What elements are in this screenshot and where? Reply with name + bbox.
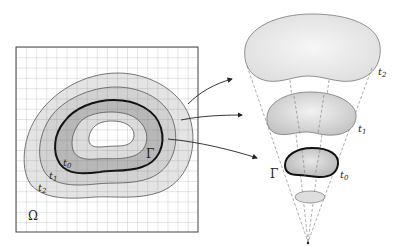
domain-label-omega: Ω	[28, 209, 38, 223]
front-label-gamma-right: Γ	[270, 167, 278, 181]
evolution-cone: t2 t1 t0 Γ	[245, 14, 387, 244]
level-shape-t2	[245, 14, 381, 81]
level-shape-t1	[267, 92, 356, 135]
level-label-t0: t0	[340, 169, 349, 182]
level-shape-small	[295, 191, 325, 203]
cone-apex	[307, 242, 309, 244]
front-label-gamma-left: Γ	[146, 147, 154, 161]
level-shape-t0-gamma	[285, 148, 338, 177]
level-set-diagram: Ω Γ t0 t1 t2	[0, 0, 400, 247]
level-label-t1: t1	[358, 123, 367, 136]
level-label-t2: t2	[378, 66, 387, 79]
